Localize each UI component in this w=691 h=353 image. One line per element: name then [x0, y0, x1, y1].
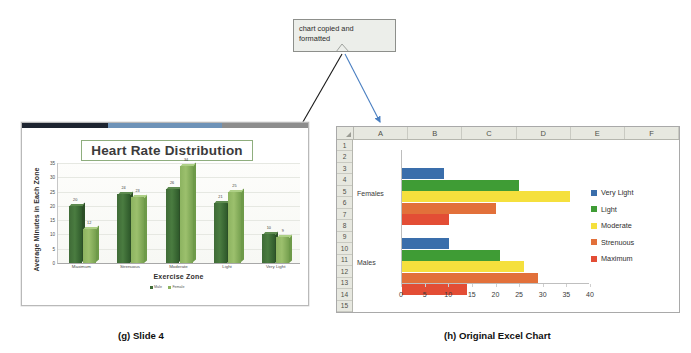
excel-row-header-12[interactable]: 12 [337, 266, 352, 277]
excel-column-header-d[interactable]: D [517, 127, 571, 139]
topbar-blue-segment [108, 123, 222, 128]
excel-legend-label: Strenuous [601, 238, 634, 247]
slide-top-bar [22, 123, 308, 128]
excel-legend-swatch [591, 206, 597, 212]
excel-x-tickmark [425, 284, 426, 287]
excel-x-tickmark [566, 284, 567, 287]
excel-column-header-f[interactable]: F [625, 127, 679, 139]
excel-row-header-13[interactable]: 13 [337, 278, 352, 289]
excel-x-tick: 15 [468, 291, 476, 298]
excel-row-header-15[interactable]: 15 [337, 301, 352, 312]
excel-row-header-3[interactable]: 3 [337, 163, 352, 174]
excel-bar [402, 214, 449, 225]
excel-x-tickmark [519, 284, 520, 287]
callout-line-1: chart copied and [299, 24, 390, 34]
excel-legend-label: Light [601, 205, 617, 214]
select-all-corner[interactable] [337, 127, 354, 139]
excel-bar [402, 284, 467, 295]
excel-bar [402, 168, 444, 179]
slide-x-axis-title: Exercise Zone [57, 273, 300, 280]
excel-legend-item: Very Light [591, 188, 675, 197]
excel-x-tick: 25 [515, 291, 523, 298]
excel-x-tickmark [543, 284, 544, 287]
excel-bar [402, 203, 496, 214]
slide-category-label: Maximum [57, 264, 106, 269]
slide-bar: 12 [83, 229, 96, 263]
slide-bar-group: 2012 [58, 163, 106, 263]
slide-bar: 23 [131, 197, 144, 263]
excel-row-header-7[interactable]: 7 [337, 209, 352, 220]
slide-bar: 21 [214, 203, 227, 263]
excel-row-header-6[interactable]: 6 [337, 197, 352, 208]
caption-g: (g) Slide 4 [118, 330, 164, 341]
excel-chart[interactable]: Females Males 0510152025303540 Very Ligh… [353, 140, 679, 312]
slide-bar-face [214, 203, 227, 263]
slide-bar-value: 25 [232, 184, 236, 188]
slide-y-tick: 15 [43, 218, 55, 223]
slide-bar-face [262, 234, 275, 263]
slide-bar-side [241, 189, 244, 263]
excel-legend-item: Light [591, 205, 675, 214]
slide-bar-value: 23 [135, 189, 139, 193]
excel-bar [402, 261, 524, 272]
callout-line-2: formatted [299, 34, 390, 44]
slide-legend-item-male: Male [150, 285, 162, 289]
excel-legend: Very LightLightModerateStrenuousMaximum [591, 188, 675, 263]
excel-row-header-9[interactable]: 9 [337, 232, 352, 243]
excel-bar [402, 238, 449, 249]
slide-bar-group: 2634 [155, 163, 203, 263]
slide-bar-group: 2423 [106, 163, 154, 263]
excel-legend-swatch [591, 239, 597, 245]
slide-bar-value: 9 [282, 229, 284, 233]
slide-bar-value: 34 [184, 158, 188, 162]
slide-bar-face [228, 192, 241, 263]
excel-x-tick: 10 [444, 291, 452, 298]
slide-y-tick: 30 [43, 175, 55, 180]
excel-column-header-c[interactable]: C [462, 127, 516, 139]
slide-legend-item-female: Female [168, 285, 184, 289]
excel-legend-swatch [591, 190, 597, 196]
arrow-to-excel [345, 54, 380, 122]
slide-y-tick-labels: 05101520253035 [43, 163, 55, 263]
slide-category-label: Very Light [251, 264, 300, 269]
slide-bar: 24 [117, 194, 130, 263]
slide-y-tick: 10 [43, 232, 55, 237]
excel-row-header-1[interactable]: 1 [337, 140, 352, 151]
excel-column-header-e[interactable]: E [571, 127, 625, 139]
slide-panel: Heart Rate Distribution Average Minutes … [21, 122, 309, 306]
excel-column-header-b[interactable]: B [408, 127, 462, 139]
slide-bar-side [96, 226, 99, 262]
excel-x-tick: 5 [423, 291, 427, 298]
excel-x-tick: 35 [562, 291, 570, 298]
caption-h: (h) Original Excel Chart [444, 330, 551, 341]
excel-row-header-8[interactable]: 8 [337, 220, 352, 231]
excel-legend-swatch [591, 256, 597, 262]
slide-bar-group: 2125 [203, 163, 251, 263]
excel-row-header-4[interactable]: 4 [337, 174, 352, 185]
slide-bar: 25 [228, 192, 241, 263]
excel-panel: ABCDEF 123456789101112131415 Females Mal… [336, 126, 680, 313]
slide-bar-groups: 2012242326342125109 [58, 163, 300, 263]
excel-row-header-10[interactable]: 10 [337, 243, 352, 254]
excel-row-header-11[interactable]: 11 [337, 255, 352, 266]
excel-category-label-females: Females [357, 190, 384, 197]
excel-column-header-a[interactable]: A [354, 127, 408, 139]
slide-bar-value: 20 [73, 198, 77, 202]
slide-bar-face [117, 194, 130, 263]
slide-bar-value: 10 [267, 226, 271, 230]
excel-bar [402, 273, 538, 284]
slide-bar-side [144, 195, 147, 263]
excel-legend-label: Maximum [601, 254, 633, 263]
excel-x-tickmark [496, 284, 497, 287]
excel-x-tick: 0 [399, 291, 403, 298]
excel-row-header-14[interactable]: 14 [337, 289, 352, 300]
slide-bar-face [83, 229, 96, 263]
excel-row-header-5[interactable]: 5 [337, 186, 352, 197]
excel-row-headers: 123456789101112131415 [337, 140, 353, 312]
topbar-navy-segment [22, 123, 108, 128]
excel-legend-label: Very Light [601, 188, 633, 197]
excel-row-header-2[interactable]: 2 [337, 151, 352, 162]
excel-x-tickmark [401, 284, 402, 287]
slide-category-label: Moderate [154, 264, 203, 269]
slide-bar-face [180, 166, 193, 263]
